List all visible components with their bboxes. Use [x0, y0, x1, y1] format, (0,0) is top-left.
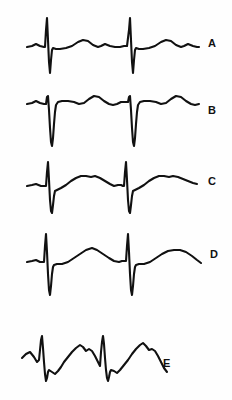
ecg-figure: A B C D E	[0, 0, 232, 400]
figure-background	[0, 0, 232, 400]
ecg-canvas: A B C D E	[0, 0, 232, 400]
panel-label-b: B	[208, 104, 216, 116]
panel-label-d: D	[210, 248, 218, 260]
panel-label-c: C	[208, 175, 216, 187]
panel-label-e: E	[163, 357, 170, 369]
panel-label-a: A	[208, 37, 216, 49]
